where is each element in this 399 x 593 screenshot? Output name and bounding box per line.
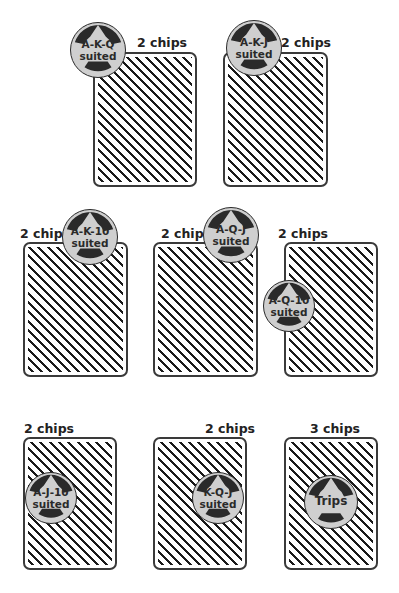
chip-hand-label: A-K-Q [71,38,125,50]
poker-chip-icon: A-J-10suited [25,472,77,524]
chip-suited-label: suited [264,306,314,318]
payout-label: 2 chips [281,37,331,50]
chip-hand-label: A-K-10 [63,225,117,237]
poker-chip-icon: A-K-Jsuited [226,20,282,76]
poker-chip-icon: A-K-Qsuited [70,22,126,78]
payout-label: 2 chips [278,228,328,241]
chip-hand-label: A-J-10 [26,486,76,498]
poker-chip-icon: A-Q-Jsuited [203,207,259,263]
chip-suited-label: suited [204,235,258,247]
poker-chip-icon: A-Q-10suited [263,280,315,332]
poker-chip-icon: A-K-10suited [62,209,118,265]
chip-suited-label: suited [71,50,125,62]
payout-label: 2 chips [137,37,187,50]
card-back-icon [153,242,258,377]
chip-suited-label: suited [26,498,76,510]
payout-label: 3 chips [310,423,360,436]
chip-hand-label: A-Q-J [204,223,258,235]
chip-suited-label: suited [193,498,243,510]
chip-hand-label: Trips [305,495,357,509]
payout-label: 2 chips [205,423,255,436]
poker-chip-icon: Trips [304,475,358,529]
chip-suited-label: suited [227,48,281,60]
payout-diagram: 2 chips A-K-Qsuited 2 chips A-K-Jsuited … [0,0,399,593]
poker-chip-icon: K-Q-Jsuited [192,472,244,524]
chip-hand-label: K-Q-J [193,486,243,498]
chip-hand-label: A-K-J [227,36,281,48]
payout-label: 2 chips [24,423,74,436]
chip-suited-label: suited [63,237,117,249]
chip-hand-label: A-Q-10 [264,294,314,306]
